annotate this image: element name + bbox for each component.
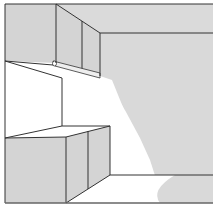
lower-cabinet-front: [5, 137, 66, 203]
upper-cabinet-side: [5, 4, 56, 63]
kitchen-cabinet-drawing: [0, 0, 213, 206]
illustration: Kitchen cabinets with under-cabinet ligh…: [0, 0, 213, 206]
